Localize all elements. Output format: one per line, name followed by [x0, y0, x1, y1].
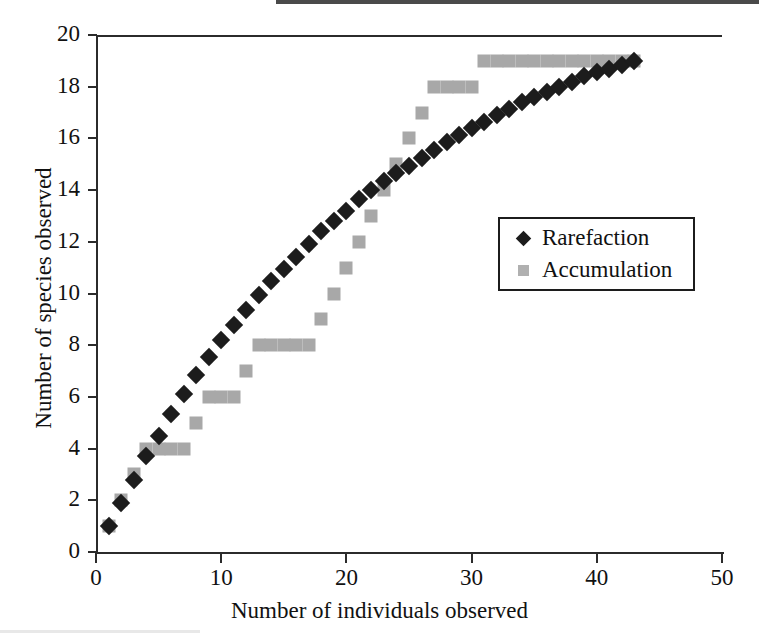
data-point-accumulation — [428, 80, 441, 93]
data-point-accumulation — [490, 54, 503, 67]
x-tick-label: 20 — [316, 566, 376, 589]
data-point-accumulation — [403, 132, 416, 145]
data-point-accumulation — [240, 365, 253, 378]
y-tick — [88, 396, 97, 398]
data-point-accumulation — [202, 390, 215, 403]
y-tick — [88, 293, 97, 295]
data-point-accumulation — [415, 106, 428, 119]
y-tick — [88, 34, 97, 36]
y-tick — [88, 344, 97, 346]
data-point-accumulation — [515, 54, 528, 67]
y-tick — [88, 137, 97, 139]
legend-entry-accumulation: Accumulation — [510, 255, 672, 285]
data-point-accumulation — [465, 80, 478, 93]
data-point-accumulation — [540, 54, 553, 67]
square-marker-icon — [510, 265, 536, 276]
data-point-accumulation — [578, 54, 591, 67]
data-point-accumulation — [277, 339, 290, 352]
data-point-accumulation — [352, 235, 365, 248]
x-tick-label: 10 — [191, 566, 251, 589]
data-point-accumulation — [365, 209, 378, 222]
x-tick — [220, 553, 222, 563]
data-point-accumulation — [252, 339, 265, 352]
x-tick — [721, 553, 723, 563]
data-point-accumulation — [302, 339, 315, 352]
data-point-accumulation — [528, 54, 541, 67]
data-point-accumulation — [177, 442, 190, 455]
data-point-accumulation — [315, 313, 328, 326]
data-point-accumulation — [165, 442, 178, 455]
x-tick-label: 40 — [567, 566, 627, 589]
y-axis-title: Number of species observed — [31, 38, 57, 558]
data-point-accumulation — [290, 339, 303, 352]
x-axis-line — [96, 552, 724, 554]
y-tick — [88, 86, 97, 88]
data-point-accumulation — [440, 80, 453, 93]
x-tick — [471, 553, 473, 563]
y-tick — [88, 241, 97, 243]
data-point-accumulation — [190, 416, 203, 429]
x-axis-title: Number of individuals observed — [0, 598, 759, 624]
x-tick-label: 30 — [442, 566, 502, 589]
data-point-accumulation — [553, 54, 566, 67]
data-point-accumulation — [478, 54, 491, 67]
plot-area — [96, 35, 722, 553]
data-point-accumulation — [565, 54, 578, 67]
y-tick — [88, 499, 97, 501]
x-tick — [596, 553, 598, 563]
x-tick — [95, 553, 97, 563]
x-tick — [345, 553, 347, 563]
y-tick — [88, 448, 97, 450]
rarefaction-accumulation-chart: 02468101214161820 01020304050 Number of … — [0, 0, 759, 637]
data-point-accumulation — [453, 80, 466, 93]
data-point-accumulation — [340, 261, 353, 274]
diamond-marker-icon — [510, 233, 536, 244]
y-tick — [88, 189, 97, 191]
scan-artifact-top — [276, 0, 759, 4]
data-point-accumulation — [327, 287, 340, 300]
data-point-accumulation — [227, 390, 240, 403]
data-point-accumulation — [503, 54, 516, 67]
legend-entry-rarefaction: Rarefaction — [510, 223, 649, 253]
legend-label-accumulation: Accumulation — [542, 257, 672, 283]
data-point-accumulation — [215, 390, 228, 403]
data-point-accumulation — [265, 339, 278, 352]
legend-label-rarefaction: Rarefaction — [542, 225, 649, 251]
x-tick-label: 0 — [66, 566, 126, 589]
legend: Rarefaction Accumulation — [498, 217, 695, 291]
scan-artifact-bottom — [0, 630, 200, 633]
x-tick-label: 50 — [692, 566, 752, 589]
